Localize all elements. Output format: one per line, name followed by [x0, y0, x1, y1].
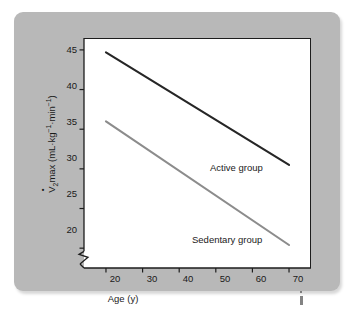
figure-root: 45 40 35 30 25 20 20 30 40 50 60 70 Age …: [0, 0, 350, 311]
y-axis-title-units: (mL·kg: [46, 132, 57, 164]
xtick-label-40: 40: [177, 273, 199, 284]
xtick-label-50: 50: [214, 273, 236, 284]
xtick-label-70: 70: [287, 273, 309, 284]
xtick-label-30: 30: [141, 273, 163, 284]
y-axis-title-word: max: [46, 165, 57, 183]
y-axis-title-mid: ·min: [46, 106, 57, 124]
x-axis-title-text: Age (y): [108, 293, 139, 304]
xtick-label-20: 20: [104, 273, 126, 284]
series-label-sedentary-group: Sedentary group: [192, 234, 262, 245]
y-axis-title-symbol: V: [46, 186, 57, 192]
xtick-label-60: 60: [250, 273, 272, 284]
y-axis-title-sup1: −1: [45, 125, 52, 133]
scan-artifact-mark: [300, 296, 303, 305]
series-label-active-group: Active group: [210, 162, 263, 173]
chart-panel: 45 40 35 30 25 20 20 30 40 50 60 70 Age …: [14, 12, 340, 291]
y-axis-title-sup2: −1: [45, 98, 52, 106]
y-axis-title-close: ): [46, 95, 57, 98]
y-axis-title: V2max (mL·kg−1·min−1): [45, 49, 59, 239]
